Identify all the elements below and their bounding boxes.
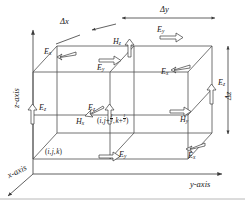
dimension-label-dy: Δy <box>160 5 169 14</box>
axis-label-y: y-axis <box>190 180 210 189</box>
node-label-origin: (i, j, k) <box>45 149 62 156</box>
field-label-e-z-mid: Ez <box>88 104 95 113</box>
field-label-h-y-right: Hy <box>180 116 188 125</box>
dimension-label-dz: Δz <box>224 92 233 100</box>
cube-wireframe <box>33 46 212 159</box>
axis-label-z: z-axis <box>12 88 21 108</box>
arrow-e-y-bottom <box>99 152 120 161</box>
yee-cell-drawing <box>0 0 245 206</box>
dimension-dx-line <box>56 24 116 44</box>
field-label-e-z-right: Ez <box>218 79 225 88</box>
field-label-e-x-bottom: Ex <box>188 152 195 161</box>
yee-cell-figure: Δx Δy Δz z-axis y-axis x-axis Ex Hz Ey E… <box>0 0 245 206</box>
field-label-h-x-front: Hx <box>76 118 84 127</box>
arrow-e-x-top-left <box>57 52 76 60</box>
arrow-e-z-right <box>207 84 216 104</box>
field-label-h-z-top: Hz <box>113 38 121 47</box>
field-label-e-x-right-upper: Ex <box>161 68 168 77</box>
field-label-e-y-top-mid: Ey <box>97 64 104 73</box>
node-label-hx: (i, j+12, k+12) <box>97 114 128 125</box>
field-label-e-y-bottom: Ey <box>119 151 126 160</box>
field-label-e-x-top-left: Ex <box>44 48 51 57</box>
arrow-e-z-left <box>28 104 37 124</box>
field-label-e-y-top-right: Ey <box>157 26 164 35</box>
field-label-e-z-left: Ez <box>39 104 46 113</box>
dimension-label-dx: Δx <box>60 17 69 26</box>
